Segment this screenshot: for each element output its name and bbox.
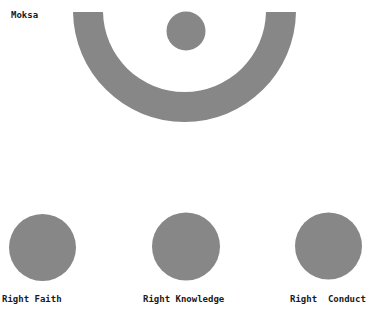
right-conduct-label: Right Conduct (290, 294, 366, 304)
right-conduct-circle (295, 213, 362, 280)
moksa-dot (167, 12, 206, 51)
right-faith-label: Right Faith (2, 294, 62, 304)
right-knowledge-label: Right Knowledge (143, 294, 224, 304)
moksa-label: Moksa (11, 10, 38, 20)
right-knowledge-circle (152, 213, 220, 281)
right-faith-circle (9, 214, 76, 281)
moksa-diagram (0, 0, 380, 319)
